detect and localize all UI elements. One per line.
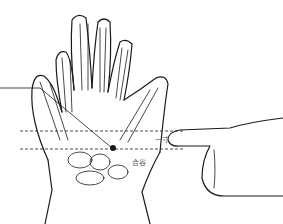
hand-acupoint-diagram: 一寸 合谷 bbox=[0, 0, 283, 224]
forearm-left-edge bbox=[45, 160, 52, 224]
hand-illustration bbox=[0, 0, 283, 224]
ring-outline bbox=[92, 19, 111, 92]
hegu-point bbox=[110, 145, 116, 151]
cun-label: 一寸 bbox=[155, 134, 169, 144]
pointing-hand bbox=[168, 118, 283, 196]
hegu-label: 合谷 bbox=[132, 157, 146, 167]
little-outline bbox=[108, 40, 132, 100]
